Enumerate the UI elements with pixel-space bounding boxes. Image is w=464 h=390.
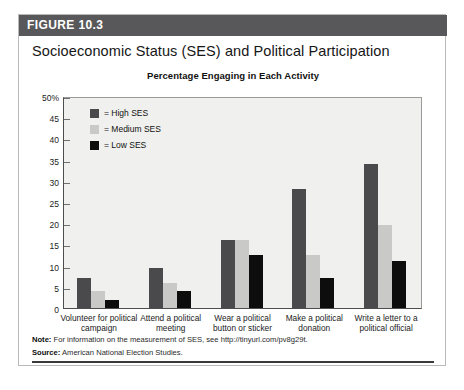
y-axis-tick-label: 45 xyxy=(50,114,59,124)
bar xyxy=(235,240,249,308)
figure-title: Socioeconomic Status (SES) and Political… xyxy=(32,43,390,59)
bottom-rule xyxy=(32,361,434,363)
bar xyxy=(364,164,378,308)
chart-subtitle: Percentage Engaging in Each Activity xyxy=(19,70,447,81)
y-axis-tick-label: 25 xyxy=(50,199,59,209)
y-axis-tick-label: 40 xyxy=(50,135,59,145)
bar-group xyxy=(221,98,263,308)
bar xyxy=(105,300,119,308)
bar xyxy=(91,291,105,308)
y-axis-tick-label: 15 xyxy=(50,241,59,251)
bar xyxy=(77,278,91,308)
figure-number-label: FIGURE 10.3 xyxy=(27,18,103,32)
bars-layer xyxy=(64,98,421,308)
bar xyxy=(392,261,406,308)
bar xyxy=(177,291,191,308)
figure-card: FIGURE 10.3 Socioeconomic Status (SES) a… xyxy=(18,14,446,366)
bar-group xyxy=(364,98,406,308)
bar xyxy=(378,225,392,308)
plot-area: 50%454035302520151050 = High SES= Medium… xyxy=(63,97,422,309)
source-text: American National Election Studies. xyxy=(62,348,183,357)
source-row: Source: American National Election Studi… xyxy=(32,348,183,357)
bar xyxy=(320,278,334,308)
bar xyxy=(292,189,306,308)
bar xyxy=(163,283,177,308)
y-axis-tick-label: 5 xyxy=(54,284,59,294)
x-axis-category-label: Volunteer for political campaign xyxy=(59,313,139,333)
x-axis-category-label: Attend a political meeting xyxy=(131,313,211,333)
bar xyxy=(149,268,163,308)
bar xyxy=(249,255,263,308)
note-label: Note: xyxy=(32,335,51,344)
bar xyxy=(306,255,320,308)
bar-group xyxy=(149,98,191,308)
bar-group xyxy=(77,98,119,308)
x-axis-category-label: Write a letter to a political official xyxy=(346,313,426,333)
bar-group xyxy=(292,98,334,308)
note-row: Note: For information on the measurement… xyxy=(32,335,308,344)
source-label: Source: xyxy=(32,348,60,357)
bar xyxy=(221,240,235,308)
y-axis-tick-label: 10 xyxy=(50,263,59,273)
y-axis-tick-label: 30 xyxy=(50,178,59,188)
x-axis-category-label: Make a political donation xyxy=(274,313,354,333)
x-axis-category-label: Wear a political button or sticker xyxy=(203,313,283,333)
y-axis-tick-label: 35 xyxy=(50,157,59,167)
y-axis-tick-label: 20 xyxy=(50,220,59,230)
figure-number-band: FIGURE 10.3 xyxy=(19,15,447,36)
y-axis-tick-label: 50% xyxy=(42,93,59,103)
note-text: For information on the measurement of SE… xyxy=(54,335,308,344)
